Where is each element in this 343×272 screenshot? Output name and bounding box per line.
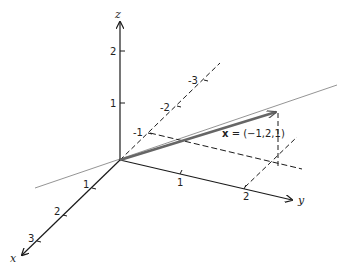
neg-x-tick-2	[177, 106, 181, 107]
y-axis-label: y	[297, 194, 305, 207]
y-tick-label-1: 1	[177, 177, 183, 188]
y-axis	[120, 160, 292, 200]
z-tick-label-1: 1	[110, 98, 116, 109]
neg-x-tick-label-2: -2	[160, 102, 170, 113]
neg-x-tick-3	[204, 80, 208, 81]
diagram-canvas: 1 2 z 1 2 y 1 2 3 x -1 -2 -3 x = (−1,2,1…	[0, 0, 343, 272]
vector-label-components: = (−1,2,1)	[228, 128, 284, 139]
x-tick-label-2: 2	[54, 206, 60, 217]
vector-span-line	[35, 85, 337, 188]
x-tick-label-3: 3	[28, 233, 34, 244]
projection-line-y2	[245, 137, 297, 187]
x-tick-2	[63, 215, 67, 216]
y-tick-1	[180, 170, 182, 174]
y-tick-label-2: 2	[243, 191, 249, 202]
coordinate-diagram: 1 2 z 1 2 y 1 2 3 x -1 -2 -3 x = (−1,2,1…	[0, 0, 343, 272]
x-tick-label-1: 1	[83, 179, 89, 190]
x-axis-label: x	[10, 252, 17, 265]
z-axis-label: z	[114, 8, 121, 21]
x-axis	[22, 160, 120, 255]
x-tick-3	[37, 241, 41, 242]
vector-label: x = (−1,2,1)	[222, 128, 285, 139]
neg-x-tick-label-1: -1	[133, 127, 143, 138]
x-tick-1	[92, 188, 96, 189]
z-tick-label-2: 2	[110, 46, 116, 57]
neg-x-tick-label-3: -3	[188, 75, 198, 86]
